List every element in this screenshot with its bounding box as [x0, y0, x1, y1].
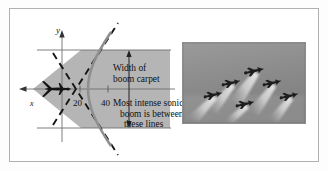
- jet-formation-photograph: [182, 42, 306, 124]
- photograph-canvas: [183, 43, 305, 123]
- width-label-line1: Width of: [113, 63, 146, 73]
- x-tick-label-40: 40: [101, 98, 110, 108]
- sonic-boom-diagram: y x 20 40 Width of boom carpet Most inte…: [9, 8, 189, 162]
- textbook-figure: y x 20 40 Width of boom carpet Most inte…: [0, 0, 328, 171]
- intense-label-line3: these lines: [113, 119, 184, 130]
- x-axis-label: x: [30, 100, 34, 109]
- intense-label-line2: boom is between: [113, 109, 184, 120]
- width-label-line2: boom carpet: [113, 74, 160, 84]
- diagram-canvas: [9, 8, 189, 162]
- width-of-boom-carpet-label: Width of boom carpet: [113, 63, 160, 84]
- intense-label-line1: Most intense sonic: [113, 98, 183, 108]
- x-tick-label-20: 20: [73, 98, 82, 108]
- most-intense-boom-label: Most intense sonic boom is between these…: [113, 98, 184, 130]
- arrow-left-icon: [19, 86, 27, 91]
- arrow-up-icon: [59, 30, 64, 38]
- y-axis-label: y: [56, 25, 60, 35]
